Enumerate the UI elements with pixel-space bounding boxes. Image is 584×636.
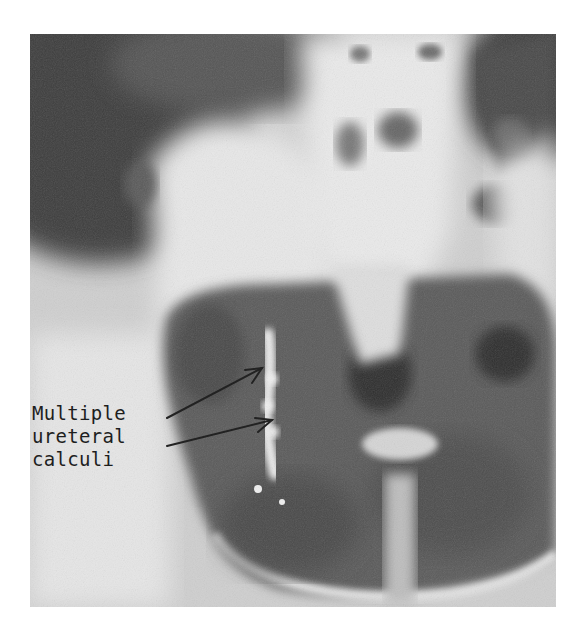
annotation-line-1: Multiple <box>32 402 126 425</box>
xray-rendering <box>30 34 556 607</box>
annotation-line-3: calculi <box>32 448 126 471</box>
annotation-line-2: ureteral <box>32 425 126 448</box>
annotation-label: Multiple ureteral calculi <box>32 402 126 471</box>
xray-image <box>30 34 556 607</box>
